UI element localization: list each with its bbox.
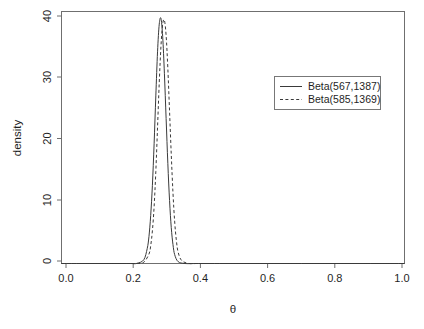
x-tick-label: 0.4: [193, 272, 208, 284]
x-tick-label: 0.0: [58, 272, 73, 284]
y-tick-label: 40: [41, 10, 53, 22]
x-tick-label: 0.2: [126, 272, 141, 284]
y-axis-title: density: [11, 120, 23, 157]
x-tick-label: 0.6: [260, 272, 275, 284]
x-tick-label: 1.0: [394, 272, 409, 284]
density-plot-figure: 40 30 20 10 0 density 0.0 0.2 0.4 0.6 0.…: [0, 0, 424, 329]
x-axis-title: θ: [230, 303, 236, 315]
legend-label-beta-585-1369: Beta(585,1369): [308, 93, 380, 105]
x-tick-label: 0.8: [327, 272, 342, 284]
legend-label-beta-567-1387: Beta(567,1387): [308, 80, 380, 92]
y-tick-label: 10: [41, 194, 53, 206]
y-tick-label: 0: [41, 258, 53, 264]
y-tick-label: 30: [41, 71, 53, 83]
legend: Beta(567,1387) Beta(585,1369): [275, 77, 381, 110]
chart-canvas: 40 30 20 10 0 density 0.0 0.2 0.4 0.6 0.…: [0, 0, 424, 329]
y-tick-label: 20: [41, 132, 53, 144]
